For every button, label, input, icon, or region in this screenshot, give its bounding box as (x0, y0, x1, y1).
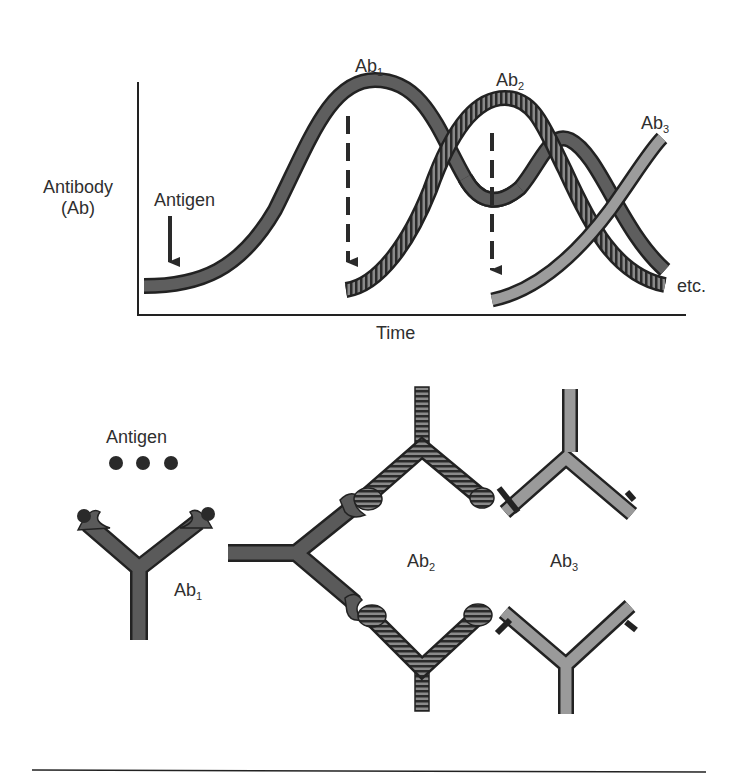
antibody-time-graph (137, 80, 686, 315)
bound-antigen-left (77, 509, 91, 523)
ab3-curve-label: Ab3 (641, 114, 669, 135)
ab1-antibody (77, 507, 215, 640)
ab1-sideways-antibody (228, 494, 365, 621)
ab2-curve-label: Ab2 (496, 71, 524, 92)
etc-label: etc. (677, 277, 706, 295)
ab2-network-label: Ab2 (407, 552, 435, 573)
idiotype-network-diagram (0, 0, 747, 775)
antigen-dots (109, 456, 178, 470)
bound-antigen-right (201, 507, 215, 521)
ab1-curve-label: Ab1 (355, 57, 383, 78)
ab3-top-antibody (499, 389, 634, 514)
ab3-bottom-antibody (497, 606, 636, 714)
bottom-rule (32, 770, 706, 772)
x-axis-label: Time (376, 324, 415, 342)
ab3-network-label: Ab3 (550, 552, 578, 573)
ab2-bottom-antibody (358, 604, 492, 711)
y-axis-label: Antibody (Ab) (38, 177, 118, 219)
antigen-marker-label: Antigen (154, 191, 215, 209)
ab1-network-label: Ab1 (174, 581, 202, 602)
ab2-top-antibody (354, 387, 494, 510)
network-antigen-label: Antigen (106, 428, 167, 446)
